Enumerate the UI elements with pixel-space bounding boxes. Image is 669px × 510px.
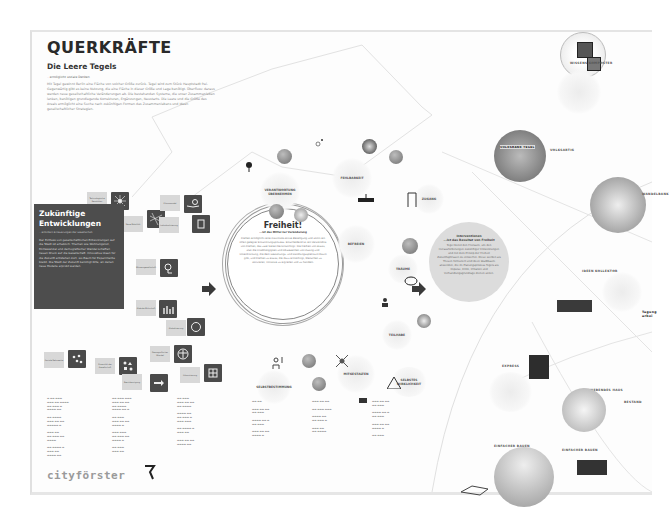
- poster-tagline: ...ermöglicht soziale Denken: [47, 75, 90, 79]
- express-text-circle: [488, 372, 533, 412]
- panel-heading-line1: Zukünftige: [39, 209, 85, 218]
- schwebendes-photo: [562, 388, 606, 432]
- collector-object: [557, 300, 592, 312]
- photo-thumbnail: [362, 139, 377, 154]
- tile-tag: Urbanisierung: [180, 367, 200, 383]
- freiheit-title: Freiheit!: [238, 221, 328, 230]
- bed-icon: [357, 194, 375, 204]
- urban-icon: [204, 364, 222, 382]
- cube-icon: [577, 42, 593, 58]
- freiheit-circle: Freiheit! ...ist das Mittel zur Veränder…: [227, 208, 339, 320]
- photo-thumbnail: [269, 204, 284, 219]
- intro-text: Mit Tegel gewinnt Berlin eine Fläche von…: [47, 82, 217, 112]
- partner-logo-icon: [144, 464, 156, 480]
- cityfoerster-logo: cityförster: [47, 469, 125, 482]
- arrow-right-icon: [202, 282, 216, 296]
- panel-body: Der Einfluss von gesellschaftlichen Entw…: [39, 238, 119, 269]
- chart-icon: [159, 300, 177, 318]
- tile-tag: Demografischer Wandel: [150, 346, 170, 362]
- person-exclaim-icon: [272, 356, 284, 370]
- photo-thumbnail: [277, 149, 292, 164]
- label-express: EXPRESS: [502, 364, 519, 368]
- references-column: ▬▬▬ ▬▬ ▬▬▬▬ ▬▬▬▬▬▬▬ ▬▬ ▬▬▬ ▬▬▬▬▬▬ ▬▬ ▬▬▬…: [372, 400, 432, 438]
- poster-subtitle: Die Leere Tegels: [47, 62, 117, 71]
- label-ideen-kollektor: IDEEN KOLLEKTOR: [582, 269, 618, 273]
- label-tagung: Tagung arbei: [642, 310, 657, 318]
- social-icon: [68, 350, 86, 368]
- tile-tag: Individualisierung: [159, 217, 179, 233]
- references-column: ▬▬ ▬▬▬ ▬▬▬▬▬▬ ▬▬ ▬▬▬▬ ▬▬▬▬▬▬▬▬ ▬▬ ▬▬▬ ▬▬…: [112, 397, 172, 454]
- poster-title: QUERKRÄFTE: [47, 38, 172, 57]
- photo-thumbnail: [312, 377, 326, 391]
- node-befreien: BEFREIEN: [337, 225, 375, 263]
- knowledge-icon: [160, 259, 178, 277]
- label-wissens-komposter: WISSENS KOMPOSTER: [570, 61, 613, 65]
- photo-thumbnail: [302, 354, 316, 368]
- photo-thumbnail: [294, 208, 308, 222]
- node-fehlbarkeit: FEHLBARKEIT: [332, 158, 372, 198]
- node-selbstbestimmung: SELBSTBESTIMMUNG: [257, 370, 291, 404]
- human-icon: [174, 345, 192, 363]
- tile-tag: Globalisierung: [166, 320, 186, 336]
- volksbank-photo: [494, 130, 546, 182]
- diversity-icon: [119, 357, 137, 375]
- tile-tag: Beschleunigung: [122, 374, 142, 390]
- panel-heading-line2: Entwicklungen: [39, 219, 101, 228]
- future-developments-panel: ZukünftigeEntwicklungen ...erfordern Ern…: [34, 204, 124, 309]
- flat-roof-sketch: [460, 484, 490, 496]
- bestand-photo: [494, 447, 554, 507]
- label-einfacher-bauen: EINFACHER BAUEN: [562, 448, 598, 452]
- photo-thumbnail: [389, 150, 403, 164]
- climate-icon: [184, 195, 202, 213]
- house-image: [577, 460, 607, 475]
- label-neuland: BESTAND: [624, 400, 642, 404]
- volksbank-card: VOLKSBANK TEGEL: [500, 145, 535, 149]
- references-column: ▬ ▬▬ ▬▬▬▬▬▬ ▬▬ ▬▬▬▬▬▬ ▬▬▬ ▬▬▬▬▬ ▬▬▬▬ ▬▬▬…: [47, 397, 107, 458]
- passport-image: [529, 355, 549, 379]
- references-column: ▬▬ ▬▬▬▬▬▬ ▬▬ ▬▬▬▬ ▬▬▬▬▬▬▬▬ ▬▬▬▬ ▬▬▬ ▬▬▬▬…: [177, 397, 237, 446]
- wissens-text-circle: [557, 70, 601, 114]
- tile-tag: Globale Wirtschaft: [136, 300, 156, 316]
- tile-tag: Soziale Netzwerke: [44, 352, 64, 368]
- freiheit-body: Freiheit ermöglicht eine maximale aktive…: [238, 237, 328, 265]
- tile-tag: Wissensgesellschaft: [136, 259, 156, 275]
- label-wandelbank: WANDELBANK: [642, 192, 669, 196]
- group-people-icon: [244, 162, 254, 172]
- tile-tag: Klimawandel: [160, 195, 180, 211]
- arrows-inward-icon: [335, 354, 349, 368]
- freiheit-sub: ...ist das Mittel zur Veränderung: [238, 231, 328, 234]
- globe-icon: [187, 318, 205, 336]
- node-teilhabe: TEILHABE: [382, 320, 412, 350]
- pyramid-icon: [387, 377, 401, 389]
- speaker-icon: [380, 297, 390, 307]
- site-outline-shape: [132, 37, 452, 197]
- arrow-icon: [150, 374, 168, 392]
- tile-tag: Neue Mobilität: [123, 216, 143, 232]
- tile-tag: Diversität der Gesellschaft: [95, 358, 115, 374]
- wandelbank-photo: [590, 177, 646, 233]
- panel-sub: ...erfordern Erneuerungen der Gesellscha…: [39, 231, 119, 234]
- label-volksartig: VOLKSARTIG: [550, 148, 574, 152]
- thought-bubbles-icon: [315, 137, 325, 147]
- references-column: ▬▬ ▬▬▬▬▬ ▬▬ ▬▬▬▬ ▬▬▬▬▬▬▬ ▬▬ ▬▬▬ ▬▬▬▬▬▬ ▬…: [252, 400, 312, 438]
- ideen-text-circle: [602, 272, 642, 312]
- poster: QUERKRÄFTE Die Leere Tegels ...ermöglich…: [30, 30, 652, 495]
- clipboard-icon: [192, 215, 210, 233]
- references-column: ▬▬▬ ▬▬ ▬▬▬▬ ▬▬▬ ▬▬▬▬▬▬▬ ▬▬▬▬ ▬▬▬ ▬▬▬▬ ▬▬…: [312, 400, 372, 434]
